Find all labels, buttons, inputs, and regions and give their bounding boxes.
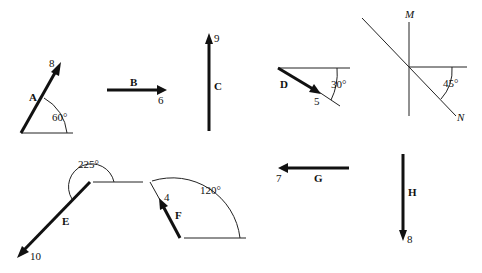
vector-diagram: A 8 60° B 6 C 9 D 5 30° M N 45° (0, 0, 482, 273)
vector-e-magnitude: 10 (30, 250, 42, 262)
vector-f-label: F (175, 209, 182, 221)
vector-e: E 10 225° (17, 158, 143, 262)
vector-f: F 4 120° (150, 178, 246, 238)
arrowhead-icon (399, 230, 407, 241)
vector-c-label: C (214, 80, 222, 92)
n-label: N (456, 111, 465, 123)
vector-d: D 5 30° (278, 68, 350, 107)
mn-angle: 45° (443, 77, 458, 89)
vector-c-magnitude: 9 (214, 32, 220, 44)
arrowhead-icon (205, 33, 213, 44)
vector-e-label: E (62, 215, 69, 227)
reference-line (150, 182, 160, 200)
vector-f-magnitude: 4 (164, 191, 170, 203)
vector-g-label: G (314, 172, 323, 184)
vector-d-label: D (280, 78, 288, 90)
vector-h-label: H (408, 186, 417, 198)
m-label: M (404, 8, 415, 20)
vector-a-label: A (29, 91, 37, 103)
vector-b-magnitude: 6 (158, 94, 164, 106)
vector-c: C 9 (205, 32, 222, 131)
vector-f-angle: 120° (200, 184, 221, 196)
vector-e-shaft (24, 182, 90, 250)
vector-h-magnitude: 8 (407, 233, 413, 245)
vector-b: B 6 (107, 76, 167, 106)
vector-e-angle: 225° (78, 158, 99, 170)
vector-d-magnitude: 5 (314, 95, 320, 107)
axes-mn: M N 45° (362, 8, 467, 123)
vector-a-magnitude: 8 (49, 57, 55, 69)
vector-h: H 8 (399, 154, 417, 245)
vector-b-label: B (130, 76, 138, 88)
vector-g: G 7 (276, 163, 349, 184)
vector-a: A 8 60° (21, 57, 73, 133)
vector-d-angle: 30° (331, 78, 346, 90)
vector-a-angle: 60° (52, 111, 67, 123)
vector-g-magnitude: 7 (276, 172, 282, 184)
